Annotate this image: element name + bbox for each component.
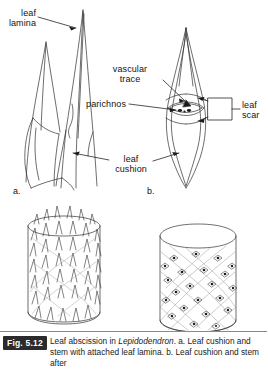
figure-number-badge: Fig. 5.12 [3,336,47,350]
label-leaf-cushion: leaf cushion [111,154,151,174]
leader-leaf-lamina [38,17,76,28]
leader-lines [38,17,240,161]
label-leaf-lamina: leaf lamina [0,8,36,28]
figure-caption: Fig. 5.12 Leaf abscission in Lepidodendr… [0,331,267,364]
caption-taxon: Lepidodendron [118,336,173,346]
label-leaf-scar: leaf scar [242,100,268,120]
panel-letter-a: a. [13,186,21,196]
caption-line1-post: . a. Leaf cushion and [174,336,251,346]
caption-line2: stem with attached leaf lamina. b. Leaf … [50,347,259,368]
label-parichnos: parichnos [62,99,126,109]
stem-with-leaves-drawing [28,206,101,324]
stem-with-scars-drawing [160,224,237,332]
caption-text: Leaf abscission in Lepidodendron. a. Lea… [50,336,264,369]
panel-letter-b: b. [147,186,155,196]
panel-b-drawing [166,28,206,188]
label-vascular-trace: vascular trace [97,64,163,84]
caption-line1-pre: Leaf abscission in [50,336,118,346]
leaf-scar-bracket [208,98,232,120]
